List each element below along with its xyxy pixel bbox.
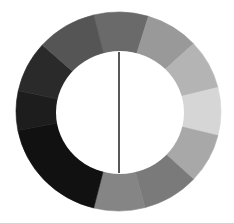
gray-ring xyxy=(0,0,234,223)
ring-center-hole xyxy=(56,51,184,174)
gray-wheel-diagram xyxy=(0,0,234,223)
